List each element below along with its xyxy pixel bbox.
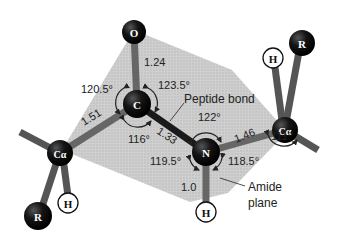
atom-label-o: O [130, 27, 139, 39]
label-angle-calpha-n-h: 118.5° [228, 155, 259, 167]
atom-hydrogen-amide: H [196, 202, 216, 222]
label-amide-plane-line2: plane [248, 196, 278, 210]
atom-label-h-amide: H [202, 207, 211, 219]
label-angle-calpha-c-n: 116° [128, 133, 150, 145]
label-peptide-bond: Peptide bond [184, 92, 255, 106]
atom-carbonyl-carbon: C [123, 90, 151, 118]
atom-r-group-right: R [289, 30, 315, 56]
atom-oxygen: O [122, 20, 146, 44]
label-angle-calpha-c-o: 120.5° [81, 83, 113, 95]
label-angle-c-n-calpha: 122° [198, 111, 221, 123]
atom-label-h-left: H [64, 198, 73, 210]
atom-alpha-carbon-left: Cα [47, 140, 73, 166]
atom-nitrogen: N [192, 138, 220, 166]
atom-r-group-left: R [24, 202, 52, 230]
peptide-bond-diagram: O C N Cα Cα R R H H H 1.24 1.51 1.33 1.4… [0, 0, 339, 239]
label-angle-o-c-n: 123.5° [158, 79, 190, 91]
bond-calpha-right-r [285, 46, 300, 128]
atom-hydrogen-right: H [263, 48, 283, 68]
label-angle-n-calpha-c: 111° [271, 130, 292, 142]
atom-label-calpha-left: Cα [54, 149, 67, 160]
atom-label-r-left: R [34, 211, 43, 223]
atom-label-r-right: R [298, 38, 307, 50]
atom-label-h-right: H [269, 53, 278, 65]
atom-hydrogen-left: H [58, 193, 78, 213]
label-amide-plane-line1: Amide [248, 180, 282, 194]
atom-label-n: N [202, 147, 210, 159]
atom-label-c: C [133, 99, 141, 111]
label-angle-c-n-h: 119.5° [150, 155, 181, 167]
label-bond-c-o: 1.24 [144, 56, 165, 68]
label-bond-n-h: 1.0 [181, 181, 196, 193]
